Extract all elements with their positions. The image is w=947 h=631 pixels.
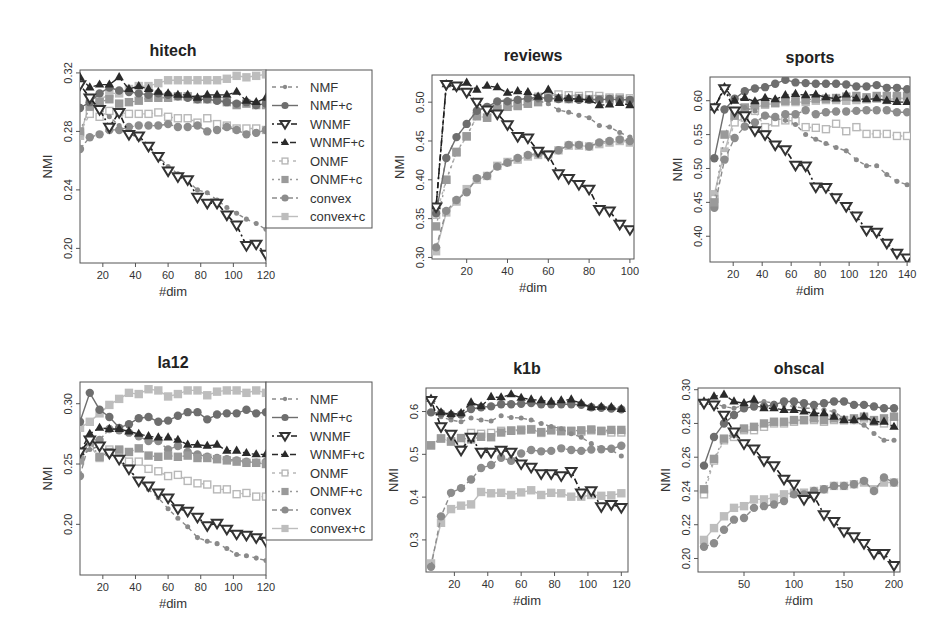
marker-square-icon <box>497 428 505 436</box>
marker-triangle-down-open-icon <box>841 203 851 212</box>
marker-square-icon <box>135 444 143 452</box>
marker-small-circle-icon <box>854 157 859 162</box>
marker-open-square-icon <box>243 489 250 496</box>
marker-small-circle-icon <box>195 535 200 540</box>
marker-circle-icon <box>771 80 779 88</box>
marker-triangle-down-open-icon <box>212 520 222 529</box>
marker-square-icon <box>597 492 605 500</box>
marker-square-icon <box>223 456 231 464</box>
marker-triangle-down-open-icon <box>709 104 719 113</box>
marker-triangle-up-icon <box>163 432 172 440</box>
marker-circle-icon <box>822 108 830 116</box>
marker-circle-icon <box>820 485 828 493</box>
marker-small-circle-icon <box>107 114 112 119</box>
marker-triangle-down-open-icon <box>486 449 496 458</box>
marker-circle-icon <box>193 408 201 416</box>
y-tick-label: 0.55 <box>692 124 704 145</box>
chart-panel-hitech: hitech204060801001200.200.240.280.32#dim… <box>40 42 372 299</box>
marker-square-icon <box>144 451 152 459</box>
legend-label: NMF <box>310 392 338 407</box>
marker-square-icon <box>252 386 260 394</box>
marker-triangle-up-icon <box>547 396 556 404</box>
marker-triangle-down-open-icon <box>849 533 859 542</box>
marker-small-circle-icon <box>793 122 798 127</box>
marker-triangle-up-icon <box>760 93 769 101</box>
marker-triangle-up-icon <box>811 89 820 97</box>
marker-square-icon <box>281 176 288 183</box>
marker-triangle-up-icon <box>232 446 241 454</box>
marker-circle-icon <box>174 442 182 450</box>
marker-small-circle-icon <box>469 415 474 420</box>
marker-circle-icon <box>830 397 838 405</box>
marker-circle-icon <box>527 446 535 454</box>
x-tick-label: 200 <box>885 578 903 590</box>
marker-triangle-down-open-icon <box>800 162 810 171</box>
marker-small-circle-icon <box>529 418 534 423</box>
x-tick-label: 60 <box>542 265 554 277</box>
marker-square-icon <box>174 76 182 84</box>
chart-panel-ohscal: ohscal501001502000.200.220.240.260.280.3… <box>658 360 903 608</box>
y-tick-label: 0.24 <box>680 480 692 501</box>
marker-circle-icon <box>547 447 555 455</box>
series-group <box>426 389 627 571</box>
marker-square-icon <box>281 213 288 220</box>
marker-circle-icon <box>452 133 460 141</box>
marker-square-icon <box>720 434 728 442</box>
marker-circle-icon <box>135 414 143 422</box>
marker-square-icon <box>164 392 172 400</box>
marker-circle-icon <box>223 123 231 131</box>
marker-square-icon <box>497 489 505 497</box>
marker-small-circle-icon <box>783 118 788 123</box>
marker-triangle-up-icon <box>144 431 153 439</box>
x-tick-label: 150 <box>835 578 853 590</box>
x-tick-label: 120 <box>869 268 887 280</box>
series-nmf-plus-c <box>76 83 270 112</box>
marker-circle-icon <box>760 502 768 510</box>
marker-square-icon <box>183 76 191 84</box>
marker-square-icon <box>242 459 250 467</box>
marker-circle-icon <box>801 79 809 87</box>
legend-label: ONMF+c <box>310 484 363 499</box>
marker-square-icon <box>477 488 485 496</box>
marker-triangle-down-open-icon <box>831 194 841 203</box>
y-tick-label: 0.6 <box>408 404 420 419</box>
marker-triangle-down-open-icon <box>251 534 261 543</box>
marker-small-circle-icon <box>509 415 514 420</box>
marker-circle-icon <box>524 94 532 102</box>
marker-circle-icon <box>144 121 152 129</box>
series-group <box>709 76 912 264</box>
marker-square-icon <box>537 428 545 436</box>
marker-small-circle-icon <box>823 141 828 146</box>
chart-title: la12 <box>157 354 188 371</box>
x-tick-label: 40 <box>756 268 768 280</box>
chart-panel-reviews: reviews204060801000.300.350.400.450.50#d… <box>392 47 639 295</box>
x-tick-label: 20 <box>727 268 739 280</box>
marker-triangle-up-icon <box>105 79 114 87</box>
marker-small-circle-icon <box>185 524 190 529</box>
marker-triangle-down-open-icon <box>526 464 536 473</box>
marker-square-icon <box>740 502 748 510</box>
marker-triangle-down-open-icon <box>871 229 881 238</box>
marker-triangle-down-open-icon <box>811 183 821 192</box>
marker-circle-icon <box>281 506 288 513</box>
marker-circle-icon <box>842 80 850 88</box>
x-tick-label: 40 <box>482 578 494 590</box>
marker-circle-icon <box>105 413 113 421</box>
marker-circle-icon <box>452 196 460 204</box>
marker-circle-icon <box>780 497 788 505</box>
marker-triangle-down-open-icon <box>163 168 173 177</box>
marker-small-circle-icon <box>597 123 602 128</box>
y-axis-label: NMI <box>658 468 673 492</box>
marker-square-icon <box>890 412 898 420</box>
marker-square-icon <box>547 489 555 497</box>
x-tick-label: 100 <box>840 268 858 280</box>
marker-square-icon <box>242 73 250 81</box>
marker-circle-icon <box>232 99 240 107</box>
marker-square-icon <box>105 401 113 409</box>
marker-small-circle-icon <box>254 221 259 226</box>
marker-square-icon <box>164 451 172 459</box>
x-tick-label: 40 <box>129 269 141 281</box>
marker-square-icon <box>710 198 718 206</box>
marker-circle-icon <box>605 137 613 145</box>
x-axis-label: #dim <box>785 593 813 608</box>
